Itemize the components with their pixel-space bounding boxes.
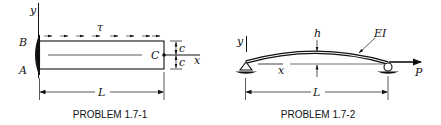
tau-label: τ (97, 21, 104, 34)
roller-support-icon (377, 63, 399, 74)
ei-leader (359, 38, 375, 53)
figure-problem-1-7-1: y τ B A C x (18, 3, 201, 120)
h-label: h (314, 27, 321, 40)
p-label: P (414, 66, 423, 79)
figure-caption: PROBLEM 1.7-2 (281, 109, 356, 120)
c-top-label: c (179, 42, 185, 55)
diagram-canvas: y τ B A C x (0, 0, 441, 125)
length-label: L (97, 86, 105, 99)
ei-label: EI (373, 27, 387, 40)
x-axis-label: x (278, 64, 285, 77)
point-a-label: A (18, 64, 27, 77)
y-axis-label: y (236, 35, 244, 48)
pin-support-icon (235, 62, 257, 74)
point-c-label: C (151, 49, 160, 62)
point-b-label: B (18, 36, 27, 49)
y-axis-label: y (29, 4, 37, 17)
figure-caption: PROBLEM 1.7-1 (73, 109, 148, 120)
x-axis-label: x (194, 54, 201, 67)
length-label: L (312, 86, 320, 99)
c-bottom-label: c (179, 56, 185, 69)
figure-problem-1-7-2: y x h EI P (235, 27, 423, 120)
